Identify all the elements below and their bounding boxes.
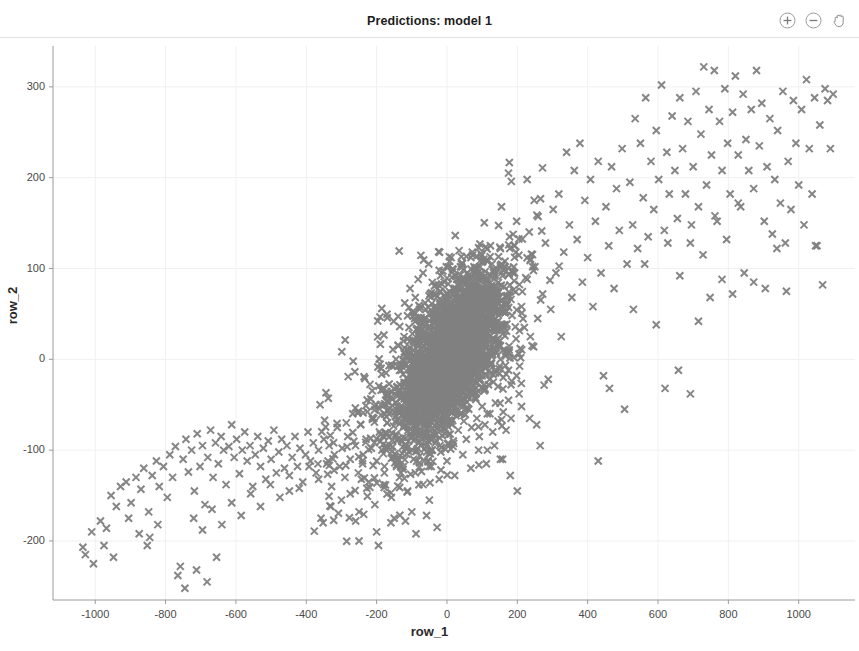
zoom-in-icon[interactable] — [778, 11, 797, 30]
x-tick-label: -200 — [347, 608, 407, 620]
plot-canvas — [0, 38, 859, 651]
x-tick-label: -600 — [206, 608, 266, 620]
zoom-out-icon[interactable] — [804, 11, 823, 30]
x-tick-label: 600 — [628, 608, 688, 620]
scatter-plot[interactable]: -1000-800-600-400-20002004006008001000 3… — [0, 38, 859, 651]
pan-hand-icon[interactable] — [830, 11, 849, 30]
chart-header: Predictions: model 1 — [0, 0, 859, 38]
y-tick-label: 200 — [1, 171, 45, 183]
y-tick-label: -200 — [1, 534, 45, 546]
chart-toolbar — [778, 11, 849, 30]
x-tick-label: 200 — [487, 608, 547, 620]
x-tick-label: 0 — [417, 608, 477, 620]
x-tick-label: 800 — [698, 608, 758, 620]
chart-window: Predictions: model 1 — [0, 0, 859, 651]
y-tick-label: 300 — [1, 80, 45, 92]
x-tick-label: 1000 — [769, 608, 829, 620]
x-tick-label: -1000 — [65, 608, 125, 620]
x-tick-label: -800 — [136, 608, 196, 620]
page-title: Predictions: model 1 — [0, 14, 859, 28]
x-axis-title: row_1 — [0, 624, 859, 639]
y-tick-label: -100 — [1, 443, 45, 455]
y-axis-title: row_2 — [5, 256, 20, 356]
data-points — [79, 63, 836, 591]
x-tick-label: -400 — [276, 608, 336, 620]
x-tick-label: 400 — [558, 608, 618, 620]
